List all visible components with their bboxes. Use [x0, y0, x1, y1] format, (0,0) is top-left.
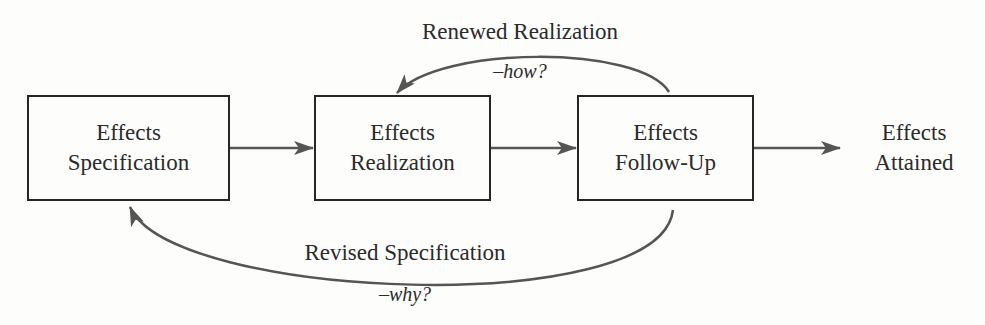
- node-line-2: Realization: [350, 148, 455, 178]
- renewed-realization-question: –how?: [470, 60, 570, 82]
- node-effects-specification: Effects Specification: [27, 95, 230, 201]
- node-line-1: Effects: [96, 118, 161, 148]
- terminal-effects-attained: Effects Attained: [850, 118, 978, 178]
- node-line-1: Effects: [633, 118, 698, 148]
- node-line-1: Effects: [370, 118, 435, 148]
- node-line-2: Specification: [68, 148, 189, 178]
- revised-specification-question: –why?: [355, 283, 455, 305]
- renewed-realization-label: Renewed Realization: [400, 19, 640, 45]
- terminal-line-1: Effects: [882, 118, 947, 148]
- node-effects-realization: Effects Realization: [314, 95, 491, 201]
- revised-specification-label: Revised Specification: [280, 240, 530, 266]
- terminal-line-2: Attained: [874, 148, 953, 178]
- node-line-2: Follow-Up: [615, 148, 716, 178]
- node-effects-follow-up: Effects Follow-Up: [577, 95, 754, 201]
